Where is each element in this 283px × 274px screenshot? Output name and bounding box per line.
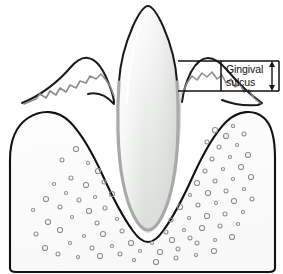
- marrow-space: [212, 127, 217, 132]
- gingiva-left: [22, 58, 114, 104]
- marrow-space: [205, 140, 209, 144]
- gingiva-left-outline: [22, 58, 114, 104]
- tooth: [115, 6, 181, 233]
- callout-label: Gingival sulcus: [226, 63, 278, 88]
- tooth-body-shading: [115, 7, 181, 233]
- dental-diagram: Gingival sulcus: [0, 0, 283, 274]
- callout-label-line1: Gingival: [226, 63, 278, 76]
- callout-label-line2: sulcus: [226, 76, 278, 89]
- anatomy-illustration: [0, 0, 283, 274]
